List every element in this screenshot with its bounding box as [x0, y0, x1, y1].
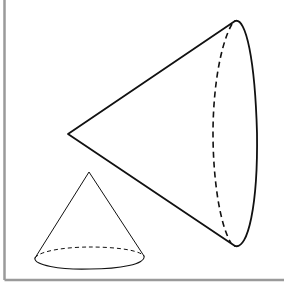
small-cone [35, 172, 144, 269]
small-cone-sides [35, 172, 144, 258]
large-cone-base-front-arc [235, 21, 257, 247]
large-cone-sides [68, 21, 235, 246]
large-cone [68, 21, 257, 247]
small-cone-base-front-arc [35, 256, 144, 269]
two-cones-diagram [0, 0, 284, 292]
frame [5, 0, 285, 280]
large-cone-base-hidden-arc [213, 24, 232, 243]
small-cone-base-hidden-arc [35, 247, 144, 258]
